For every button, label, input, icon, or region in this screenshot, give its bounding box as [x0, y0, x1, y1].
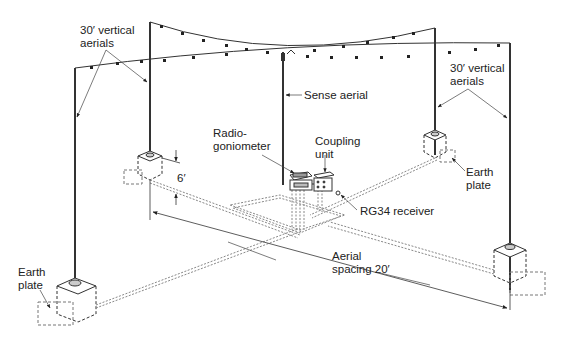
radiogoniometer	[290, 172, 312, 190]
label-rg34-receiver: RG34 receiver	[360, 205, 434, 218]
label-coupling-unit: Coupling unit	[315, 135, 360, 161]
label-earth-plate-left: Earth plate	[18, 266, 46, 292]
label-aerial-spacing: Aerial spacing 20′	[332, 250, 390, 276]
label-radiogoniometer: Radio- goniometer	[213, 127, 271, 153]
receiver-connector	[336, 191, 340, 195]
label-earth-plate-right: Earth plate	[466, 166, 494, 192]
label-vertical-aerials-left: 30′ vertical aerials	[80, 24, 135, 50]
label-vertical-aerials-right: 30′ vertical aerials	[450, 62, 505, 88]
label-sense-aerial: Sense aerial	[304, 89, 368, 102]
span-wire-front	[75, 43, 510, 68]
junction-insulator	[287, 50, 295, 54]
leader-lines	[40, 50, 507, 308]
span-wire-back	[150, 22, 435, 46]
label-height-6ft: 6′	[177, 172, 186, 185]
aerial-bases	[38, 130, 545, 325]
coupling-unit	[312, 172, 334, 191]
